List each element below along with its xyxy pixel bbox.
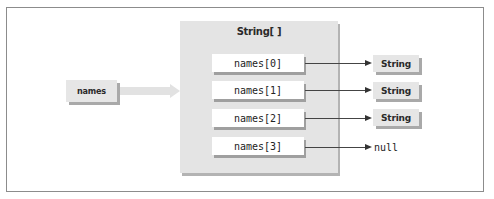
arrowhead-icon xyxy=(365,87,372,93)
string-object-2: String xyxy=(373,109,419,126)
string-object-1: String xyxy=(373,82,419,99)
element-label: names[2] xyxy=(234,113,282,124)
string-object-label: String xyxy=(381,113,411,123)
element-label: names[1] xyxy=(234,85,282,96)
string-array-container: String[ ] names[0] names[1] names[2] nam… xyxy=(180,21,338,173)
pointer-line-3 xyxy=(305,147,365,148)
element-label: names[3] xyxy=(234,141,282,152)
null-value: null xyxy=(374,141,398,155)
array-element-2: names[2] xyxy=(212,109,304,127)
array-type-title: String[ ] xyxy=(180,21,338,43)
string-object-label: String xyxy=(381,59,411,69)
element-label: names[0] xyxy=(234,58,282,69)
arrowhead-icon xyxy=(365,60,372,66)
string-object-label: String xyxy=(381,86,411,96)
string-object-0: String xyxy=(373,55,419,72)
pointer-line-0 xyxy=(305,63,365,64)
array-element-3: names[3] xyxy=(212,137,304,155)
array-element-1: names[1] xyxy=(212,81,304,99)
array-element-0: names[0] xyxy=(212,54,304,72)
variable-label: names xyxy=(77,86,106,96)
variable-names-box: names xyxy=(66,80,117,102)
arrowhead-icon xyxy=(365,144,372,150)
pointer-line-1 xyxy=(305,90,365,91)
reference-arrow-icon xyxy=(120,84,182,100)
pointer-line-2 xyxy=(305,118,365,119)
arrowhead-icon xyxy=(365,115,372,121)
